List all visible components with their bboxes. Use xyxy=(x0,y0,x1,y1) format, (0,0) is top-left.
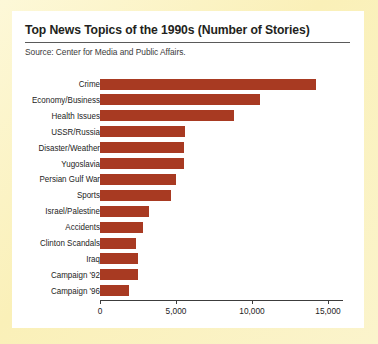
bar xyxy=(100,174,176,185)
category-label-cell: Clinton Scandals xyxy=(12,236,100,250)
category-label: USSR/Russia xyxy=(14,125,100,139)
category-label: Iraq xyxy=(14,252,100,266)
category-label-cell: Iraq xyxy=(12,252,100,266)
bar-row: Crime xyxy=(12,77,364,91)
bar xyxy=(100,94,260,105)
category-label: Disaster/Weather xyxy=(14,141,100,155)
bar-row: Israel/Palestine xyxy=(12,204,364,218)
bar-row: Campaign '92 xyxy=(12,268,364,282)
x-axis-tick xyxy=(176,300,177,304)
bar-row: Disaster/Weather xyxy=(12,141,364,155)
bar-row: Iraq xyxy=(12,252,364,266)
x-axis-tick-label: 0 xyxy=(98,306,103,316)
category-label: Persian Gulf War xyxy=(14,172,100,186)
bar xyxy=(100,206,149,217)
bar-row: Persian Gulf War xyxy=(12,172,364,186)
x-axis-tick xyxy=(328,300,329,304)
bar-row: Health Issues xyxy=(12,109,364,123)
bar xyxy=(100,190,171,201)
bar-row: Yugoslavia xyxy=(12,157,364,171)
category-label-cell: Persian Gulf War xyxy=(12,172,100,186)
bar xyxy=(100,269,138,280)
category-label: Israel/Palestine xyxy=(14,204,100,218)
category-label: Campaign '96 xyxy=(14,284,100,298)
x-axis-tick xyxy=(100,300,101,304)
category-label-cell: Accidents xyxy=(12,220,100,234)
category-label-cell: Crime xyxy=(12,77,100,91)
bar-chart-plot: CrimeEconomy/BusinessHealth IssuesUSSR/R… xyxy=(12,11,364,328)
bar-row: Clinton Scandals xyxy=(12,236,364,250)
category-label: Economy/Business xyxy=(14,93,100,107)
category-label-cell: Israel/Palestine xyxy=(12,204,100,218)
category-label-cell: Disaster/Weather xyxy=(12,141,100,155)
x-axis-tick xyxy=(252,300,253,304)
bar-row: Sports xyxy=(12,188,364,202)
page-background: Top News Topics of the 1990s (Number of … xyxy=(0,0,378,344)
category-label: Crime xyxy=(14,77,100,91)
bar xyxy=(100,79,316,90)
x-axis-tick-label: 5,000 xyxy=(166,306,187,316)
category-label-cell: Health Issues xyxy=(12,109,100,123)
bar xyxy=(100,253,138,264)
category-label-cell: USSR/Russia xyxy=(12,125,100,139)
x-axis-tick-label: 10,000 xyxy=(239,306,264,316)
category-label: Sports xyxy=(14,188,100,202)
category-label: Clinton Scandals xyxy=(14,236,100,250)
chart-card: Top News Topics of the 1990s (Number of … xyxy=(12,11,364,328)
bar xyxy=(100,158,184,169)
category-label-cell: Yugoslavia xyxy=(12,157,100,171)
category-label: Health Issues xyxy=(14,109,100,123)
bar-row: USSR/Russia xyxy=(12,125,364,139)
x-axis-tick-label: 15,000 xyxy=(315,306,340,316)
bar-row: Campaign '96 xyxy=(12,284,364,298)
category-label-cell: Campaign '92 xyxy=(12,268,100,282)
bar xyxy=(100,238,136,249)
bar xyxy=(100,126,185,137)
category-label: Yugoslavia xyxy=(14,157,100,171)
bar xyxy=(100,222,143,233)
category-label-cell: Economy/Business xyxy=(12,93,100,107)
bar xyxy=(100,142,184,153)
bar-row: Accidents xyxy=(12,220,364,234)
bar-row: Economy/Business xyxy=(12,93,364,107)
category-label: Accidents xyxy=(14,220,100,234)
x-axis-line xyxy=(100,300,343,301)
bar xyxy=(100,285,129,296)
category-label-cell: Campaign '96 xyxy=(12,284,100,298)
category-label: Campaign '92 xyxy=(14,268,100,282)
bar xyxy=(100,110,234,121)
category-label-cell: Sports xyxy=(12,188,100,202)
